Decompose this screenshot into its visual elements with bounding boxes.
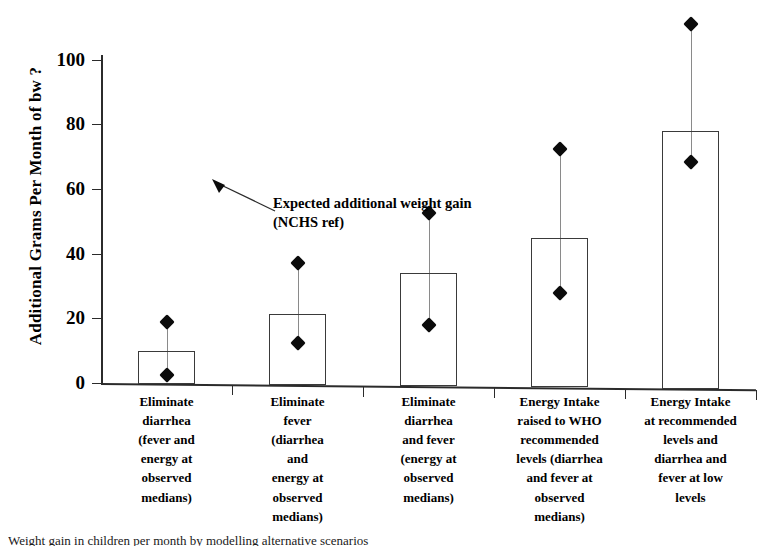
figure-caption: Weight gain in children per month by mod… xyxy=(8,534,768,546)
x-axis-category-label-1: Eliminate diarrhea (fever and energy at … xyxy=(119,392,215,507)
annotation-text: Expected additional weight gain (NCHS re… xyxy=(273,194,472,232)
y-axis-line xyxy=(101,55,103,385)
upper-bound-marker xyxy=(683,17,699,33)
y-axis-tick-40: 40 xyxy=(92,254,102,255)
upper-bound-marker xyxy=(290,256,306,272)
y-axis-tick-20: 20 xyxy=(92,318,102,319)
x-axis-category-label-5: Energy Intake at recommended levels and … xyxy=(629,392,753,507)
y-axis-tick-label-60: 60 xyxy=(66,178,85,200)
y-axis-tick-label-100: 100 xyxy=(57,49,86,71)
y-axis-tick-label-40: 40 xyxy=(66,243,85,265)
x-axis-category-label-3: Eliminate diarrhea and fever (energy at … xyxy=(377,392,481,507)
upper-bound-marker xyxy=(552,141,568,157)
plot-area: 100806040200 Expected additional weight … xyxy=(101,55,756,385)
y-axis-tick-60: 60 xyxy=(92,189,102,190)
upper-bound-marker xyxy=(159,314,175,330)
x-axis-category-labels: Eliminate diarrhea (fever and energy at … xyxy=(101,392,761,522)
y-axis-tick-label-80: 80 xyxy=(66,113,85,135)
bar xyxy=(531,238,588,388)
y-axis-title: Additional Grams Per Month of bw ? xyxy=(26,16,46,396)
x-axis-category-label-2: Eliminate fever (diarrhea and energy at … xyxy=(250,392,346,526)
y-axis-tick-label-0: 0 xyxy=(76,372,86,394)
y-axis-tick-label-20: 20 xyxy=(66,307,85,329)
y-axis-tick-80: 80 xyxy=(92,124,102,125)
y-axis-tick-100: 100 xyxy=(92,60,102,61)
y-axis-tick-0: 0 xyxy=(92,383,102,384)
x-axis-category-label-4: Energy Intake raised to WHO recommended … xyxy=(496,392,624,526)
annotation-arrow-icon xyxy=(209,178,279,214)
chart-figure: Additional Grams Per Month of bw ? 10080… xyxy=(0,0,773,546)
